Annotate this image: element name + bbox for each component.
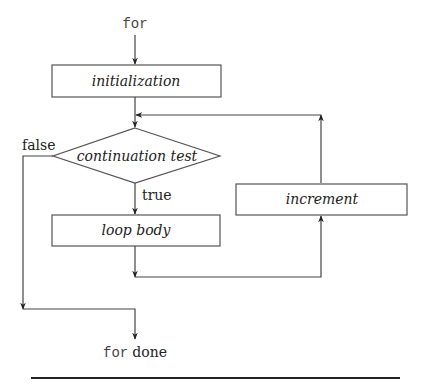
true-label: true xyxy=(142,187,172,203)
initialization-label: initialization xyxy=(92,73,181,89)
arrow-false-to-done xyxy=(23,309,135,339)
continuation-test-label: continuation test xyxy=(77,148,198,164)
loop-body-label: loop body xyxy=(101,222,171,238)
initialization-node: initialization xyxy=(52,65,221,97)
false-label: false xyxy=(22,137,55,153)
end-label: fordone xyxy=(103,344,167,361)
loop-body-node: loop body xyxy=(52,215,220,246)
end-text: done xyxy=(132,344,167,360)
start-keyword: for xyxy=(122,16,147,32)
end-keyword: for xyxy=(103,345,128,361)
increment-node: increment xyxy=(236,184,407,215)
continuation-test-node: continuation test xyxy=(53,128,220,183)
increment-label: increment xyxy=(286,191,359,207)
for-loop-flowchart: for initialization continuation test fal… xyxy=(0,0,425,386)
arrow-false-down xyxy=(23,156,53,309)
